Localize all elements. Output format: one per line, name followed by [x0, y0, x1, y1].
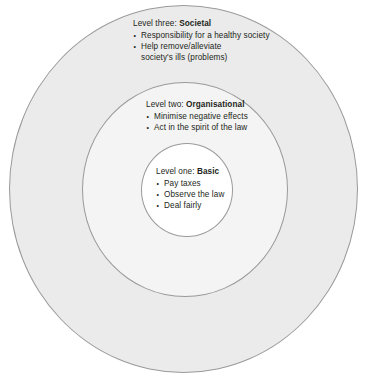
level-two-bullet-2: Act in the spirit of the law — [146, 122, 248, 133]
level-two-bullet-1: Minimise negative effects — [146, 111, 248, 122]
level-three-label-name: Societal — [179, 19, 211, 28]
level-one-bullet-3: Deal fairly — [156, 200, 224, 211]
level-two-label-name: Organisational — [186, 100, 244, 109]
level-one-label-name: Basic — [197, 167, 219, 176]
level-two-bullet-list: Minimise negative effects Act in the spi… — [146, 111, 248, 133]
level-two-label-prefix: Level two: — [146, 100, 184, 109]
level-one-bullet-2: Observe the law — [156, 189, 224, 200]
level-one-label-prefix: Level one: — [156, 167, 195, 176]
level-two-text-block: Level two: Organisational Minimise negat… — [146, 99, 248, 133]
level-one-bullet-list: Pay taxes Observe the law Deal fairly — [156, 178, 224, 212]
level-one-text-block: Level one: Basic Pay taxes Observe the l… — [156, 166, 224, 212]
level-three-label-prefix: Level three: — [133, 19, 177, 28]
level-three-bullet-list: Responsibility for a healthy society Hel… — [133, 30, 270, 64]
level-one-heading: Level one: Basic — [156, 166, 224, 177]
level-one-bullet-1: Pay taxes — [156, 178, 224, 189]
level-three-bullet-2: Help remove/alleviate society's ills (pr… — [133, 41, 249, 63]
concentric-levels-diagram: Level three: Societal Responsibility for… — [0, 0, 375, 380]
level-two-heading: Level two: Organisational — [146, 99, 248, 110]
level-three-bullet-1: Responsibility for a healthy society — [133, 30, 270, 41]
level-three-text-block: Level three: Societal Responsibility for… — [133, 18, 270, 64]
level-three-heading: Level three: Societal — [133, 18, 270, 29]
